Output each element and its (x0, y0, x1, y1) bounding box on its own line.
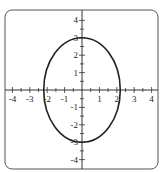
y-tick-label: -2 (71, 120, 79, 130)
x-tick-label: -4 (9, 94, 17, 104)
ellipse-graph: -4-3-2-11234 4321-1-2-3-4 (0, 0, 161, 172)
y-tick-label: -4 (71, 155, 79, 165)
x-tick-label: 1 (97, 94, 102, 104)
y-tick-label: 2 (74, 50, 79, 60)
y-tick-label: 1 (74, 68, 79, 78)
x-tick-label: 3 (132, 94, 137, 104)
x-tick-label: 2 (115, 94, 120, 104)
y-tick-label: -1 (71, 102, 79, 112)
y-tick-label: 4 (74, 15, 79, 25)
x-tick-label: -3 (26, 94, 34, 104)
x-tick-label: -1 (61, 94, 69, 104)
x-tick-label: 4 (149, 94, 154, 104)
